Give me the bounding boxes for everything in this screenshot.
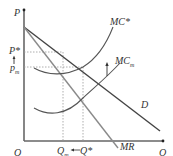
economics-diagram — [0, 0, 173, 156]
p-star-label: P* — [9, 46, 20, 56]
p-m-label: pm — [10, 63, 19, 77]
marginal-revenue-label: MR — [120, 142, 134, 152]
mc-star-label: MC* — [110, 17, 130, 27]
y-axis-arrow-icon — [23, 9, 26, 12]
quantity-shift-arrowhead-icon — [71, 149, 75, 152]
q-m-subscript: m — [64, 152, 68, 156]
x-axis-arrow-icon — [162, 140, 165, 143]
mc-m-subscript: m — [130, 62, 134, 68]
demand-label: D — [141, 100, 148, 110]
y-axis-label: P — [14, 8, 20, 18]
q-m-label: Qm — [57, 146, 69, 156]
q-star-label: Q* — [80, 146, 92, 156]
p-m-subscript: m — [15, 69, 19, 75]
origin-label: O — [14, 148, 21, 156]
price-shift-arrowhead-icon — [13, 56, 16, 60]
mc-m-label: MCm — [115, 56, 134, 70]
mc-m-text: MC — [115, 55, 130, 66]
x-axis-label: Q — [159, 148, 166, 156]
mc-shift-arrowhead-icon — [105, 62, 108, 66]
